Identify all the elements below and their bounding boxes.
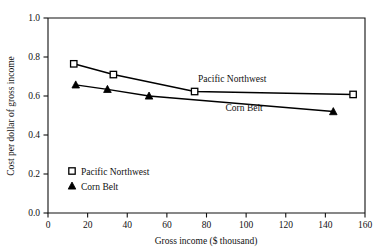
y-tick-label: 0.6 — [28, 91, 40, 101]
x-tick-label: 40 — [123, 220, 133, 230]
data-point-square — [71, 61, 77, 67]
series-corn-belt — [72, 81, 337, 115]
series-line — [76, 85, 334, 112]
x-tick-label: 60 — [162, 220, 172, 230]
x-tick-label: 140 — [318, 220, 333, 230]
y-tick-label: 1.0 — [28, 13, 40, 23]
y-axis: 0.00.20.40.60.81.0 — [28, 13, 48, 218]
y-tick-label: 0.0 — [28, 208, 40, 218]
x-axis-title: Gross income ($ thousand) — [155, 236, 258, 247]
data-point-square — [350, 91, 356, 97]
legend-label: Corn Belt — [81, 182, 119, 192]
series-annotation: Corn Belt — [226, 103, 264, 113]
x-tick-label: 160 — [358, 220, 373, 230]
x-tick-label: 20 — [83, 220, 93, 230]
data-point-square — [110, 71, 116, 77]
y-tick-label: 0.2 — [28, 169, 40, 179]
chart-legend: Pacific NorthwestCorn Belt — [68, 167, 149, 192]
data-point-square — [191, 88, 197, 94]
series-annotation: Pacific Northwest — [198, 74, 267, 84]
y-axis-title: Cost per dollar of gross income — [6, 56, 16, 176]
x-tick-label: 0 — [46, 220, 51, 230]
x-tick-label: 120 — [279, 220, 294, 230]
x-tick-label: 80 — [202, 220, 212, 230]
data-point-triangle — [72, 81, 80, 88]
legend-marker-triangle — [68, 182, 76, 189]
y-tick-label: 0.4 — [28, 130, 40, 140]
legend-marker-square — [69, 168, 75, 174]
series-layer — [71, 61, 357, 115]
x-tick-label: 100 — [239, 220, 254, 230]
x-axis: 020406080100120140160 — [46, 213, 373, 230]
chart-canvas: 0.00.20.40.60.81.0 020406080100120140160… — [0, 0, 384, 251]
chart-container: 0.00.20.40.60.81.0 020406080100120140160… — [0, 0, 384, 251]
legend-label: Pacific Northwest — [81, 167, 150, 177]
y-tick-label: 0.8 — [28, 52, 40, 62]
